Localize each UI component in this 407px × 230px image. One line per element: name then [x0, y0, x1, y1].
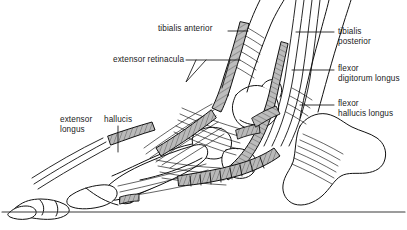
label-flexor-hallucis-longus: flexor hallucis longus	[338, 99, 393, 119]
label-tibialis-anterior-text: tibialis anterior	[158, 24, 213, 34]
label-extensor-hallucis-longus-word1: extensor	[60, 115, 92, 125]
label-extensor-retinacula-text: extensor retinacula	[113, 55, 184, 65]
label-tibialis-anterior: tibialis anterior	[158, 24, 213, 34]
label-extensor-hallucis-longus-word2: hallucis	[104, 115, 132, 125]
label-flexor-digitorum-longus-line1: flexor	[338, 64, 400, 74]
label-tibialis-posterior-line2: posterior	[338, 37, 371, 47]
label-flexor-hallucis-longus-line2: hallucis longus	[338, 109, 393, 119]
anatomy-figure: tibialis anterior extensor retinacula ti…	[0, 0, 407, 230]
label-extensor-hallucis-longus-line2: longus	[60, 125, 92, 135]
label-extensor-hallucis-longus: extensor hallucis longus	[60, 115, 92, 135]
label-flexor-digitorum-longus: flexor digitorum longus	[338, 64, 400, 84]
label-flexor-hallucis-longus-line1: flexor	[338, 99, 393, 109]
label-tibialis-posterior-line1: tibialis	[338, 27, 371, 37]
leader-extensor-retinacula-branch-a	[186, 60, 206, 82]
label-flexor-digitorum-longus-line2: digitorum longus	[338, 74, 400, 84]
label-extensor-retinacula: extensor retinacula	[113, 55, 184, 65]
label-tibialis-posterior: tibialis posterior	[338, 27, 371, 47]
